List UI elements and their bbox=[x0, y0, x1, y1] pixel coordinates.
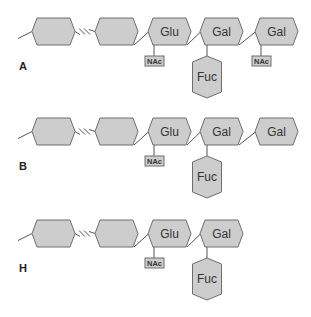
diagram-canvas: NAcGluFucGalNAcGalANAcGluFucGalGalBNAcGl… bbox=[0, 0, 311, 317]
fucose-label: Fuc bbox=[197, 272, 217, 286]
row-label-h: H bbox=[19, 262, 27, 274]
residue-label: Gal bbox=[267, 25, 286, 39]
chain-break-line bbox=[75, 132, 80, 135]
residue-unlabeled bbox=[95, 118, 138, 145]
residue-label: Glu bbox=[160, 227, 179, 241]
residue-label: Gal bbox=[212, 25, 231, 39]
chain-stub-line bbox=[18, 32, 32, 39]
chain-row-h: NAcGluFucGalH bbox=[18, 220, 243, 300]
chain-break-line bbox=[75, 234, 80, 237]
residue-unlabeled bbox=[95, 18, 138, 45]
chain-break-mark bbox=[79, 29, 85, 35]
chain-stub-line bbox=[18, 234, 32, 241]
residue-unlabeled bbox=[95, 220, 138, 247]
row-label-a: A bbox=[19, 60, 27, 72]
fucose-label: Fuc bbox=[197, 70, 217, 84]
residue-label: Glu bbox=[160, 125, 179, 139]
residue-label: Gal bbox=[267, 125, 286, 139]
fucose-label: Fuc bbox=[197, 170, 217, 184]
chain-break-line bbox=[89, 232, 95, 234]
nac-label: NAc bbox=[147, 259, 162, 268]
chain-row-a: NAcGluFucGalNAcGalA bbox=[18, 18, 298, 98]
chain-break-mark bbox=[79, 231, 85, 237]
chain-break-mark bbox=[79, 129, 85, 135]
nac-label: NAc bbox=[147, 57, 162, 66]
nac-label: NAc bbox=[254, 57, 269, 66]
blood-group-antigen-diagram: NAcGluFucGalNAcGalANAcGluFucGalGalBNAcGl… bbox=[0, 0, 311, 317]
residue-label: Gal bbox=[212, 227, 231, 241]
chain-break-line bbox=[89, 30, 95, 32]
chain-break-line bbox=[75, 32, 80, 35]
row-label-b: B bbox=[19, 160, 27, 172]
nac-label: NAc bbox=[147, 157, 162, 166]
chain-stub-line bbox=[18, 132, 32, 139]
chain-row-b: NAcGluFucGalGalB bbox=[18, 118, 298, 198]
residue-unlabeled bbox=[32, 118, 75, 145]
chain-break-line bbox=[89, 130, 95, 132]
residue-label: Gal bbox=[212, 125, 231, 139]
residue-unlabeled bbox=[32, 18, 75, 45]
residue-label: Glu bbox=[160, 25, 179, 39]
residue-unlabeled bbox=[32, 220, 75, 247]
